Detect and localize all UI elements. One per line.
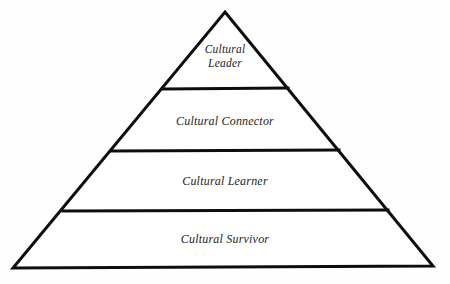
tier-divider-connector-learner bbox=[112, 150, 339, 151]
tier-divider-learner-survivor bbox=[63, 210, 388, 211]
pyramid-diagram: Cultural Leader Cultural Connector Cultu… bbox=[0, 0, 450, 284]
tier-divider-leader-connector bbox=[163, 88, 288, 89]
tier-label-cultural-leader: Cultural Leader bbox=[160, 43, 290, 70]
tier-label-cultural-survivor: Cultural Survivor bbox=[120, 232, 330, 246]
tier-label-cultural-learner: Cultural Learner bbox=[120, 174, 330, 188]
tier-label-cultural-connector: Cultural Connector bbox=[120, 114, 330, 128]
